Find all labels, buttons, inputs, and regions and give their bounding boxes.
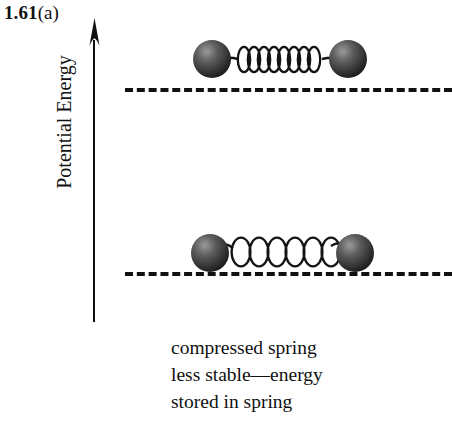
figure-number: 1.61 [4, 2, 38, 23]
caption-line-1: compressed spring [171, 334, 441, 361]
figure-number-label: 1.61(a) [4, 2, 59, 24]
caption-line-3: stored in spring [171, 388, 441, 415]
energy-axis [80, 18, 110, 323]
relaxed-spring-system [185, 224, 380, 280]
figure-caption: compressed spring less stable—energy sto… [171, 334, 441, 415]
caption-line-2: less stable—energy [171, 361, 441, 388]
axis-title: Potential Energy [52, 32, 76, 212]
axis-line [93, 40, 95, 322]
upper-energy-level [125, 88, 452, 92]
compressed-spring-system [190, 31, 370, 87]
figure-part: (a) [38, 2, 59, 23]
